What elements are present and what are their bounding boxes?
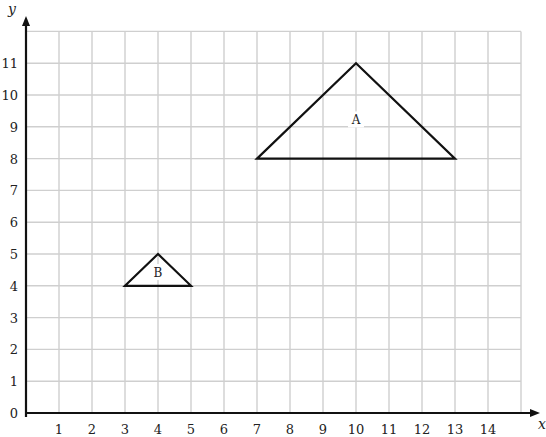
y-tick-label: 8	[10, 152, 18, 167]
y-tick-label: 7	[10, 183, 18, 198]
shape-label-a: A	[351, 113, 361, 127]
shape-label-b: B	[154, 266, 163, 280]
x-tick-label: 11	[381, 422, 398, 437]
x-tick-label: 3	[121, 422, 129, 437]
y-axis-label: y	[7, 1, 17, 17]
x-tick-label: 8	[286, 422, 294, 437]
y-tick-label: 11	[1, 56, 18, 71]
y-tick-label: 10	[1, 88, 18, 103]
x-tick-label: 2	[88, 422, 96, 437]
x-tick-label: 7	[253, 422, 261, 437]
y-tick-label: 9	[10, 120, 18, 135]
x-tick-label: 14	[480, 422, 497, 437]
x-tick-label: 6	[220, 422, 228, 437]
y-tick-label: 5	[10, 247, 18, 262]
x-tick-label: 13	[447, 422, 464, 437]
y-tick-label: 6	[10, 215, 18, 230]
x-tick-label: 1	[55, 422, 63, 437]
x-tick-label: 4	[154, 422, 162, 437]
x-tick-label: 5	[187, 422, 195, 437]
x-tick-label: 10	[348, 422, 365, 437]
y-axis-arrow-icon	[22, 16, 30, 26]
y-tick-label: 3	[10, 311, 18, 326]
x-tick-label: 9	[319, 422, 327, 437]
y-tick-label: 0	[10, 406, 18, 421]
x-tick-label: 12	[414, 422, 431, 437]
x-axis-label: x	[538, 416, 546, 432]
coordinate-plane: 123456789101112131401234567891011xyAB	[0, 0, 546, 437]
y-tick-label: 2	[10, 342, 18, 357]
y-tick-label: 4	[10, 279, 18, 294]
y-tick-label: 1	[10, 374, 18, 389]
